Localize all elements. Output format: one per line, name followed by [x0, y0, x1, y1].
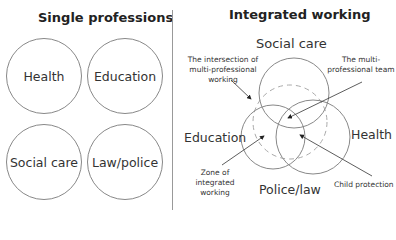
- venn-label-police-law: Police/law: [259, 182, 321, 197]
- health-venn-circle: [276, 100, 350, 174]
- venn-label-social-care: Social care: [256, 36, 327, 51]
- venn-label-education: Education: [184, 130, 246, 145]
- venn-label-health: Health: [351, 127, 392, 142]
- integrated-zone-dashed-circle: [253, 85, 327, 159]
- team-arrow: [288, 82, 362, 118]
- social-care-venn-circle: [259, 58, 329, 128]
- annotation-zone: Zone of integrated working: [190, 168, 240, 198]
- annotation-child-protection: Child protection: [334, 180, 394, 190]
- annotation-team: The multi- professional team: [326, 55, 396, 75]
- annotation-intersection: The intersection of multi-professional w…: [183, 55, 263, 85]
